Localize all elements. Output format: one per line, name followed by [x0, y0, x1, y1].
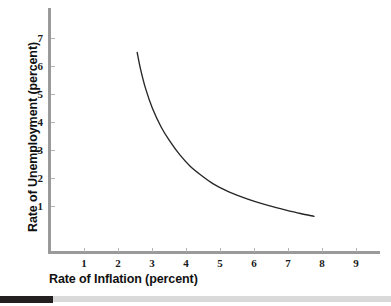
y-tick-mark-4 — [51, 122, 55, 123]
y-tick-mark-3 — [51, 150, 55, 151]
footer-rule-light-segment — [53, 296, 391, 302]
phillips-curve-plot — [0, 0, 391, 306]
x-axis-line — [48, 251, 380, 254]
y-tick-mark-1 — [51, 206, 55, 207]
y-tick-mark-7 — [51, 38, 55, 39]
x-tick-label-7: 7 — [280, 258, 296, 269]
footer-rule — [0, 296, 391, 303]
y-tick-mark-6 — [51, 66, 55, 67]
y-axis-line — [48, 8, 51, 254]
x-tick-label-5: 5 — [212, 258, 228, 269]
x-tick-label-6: 6 — [246, 258, 262, 269]
x-tick-label-9: 9 — [348, 258, 364, 269]
x-tick-mark-8 — [322, 248, 323, 252]
y-tick-mark-5 — [51, 94, 55, 95]
x-tick-label-8: 8 — [314, 258, 330, 269]
x-tick-mark-6 — [254, 248, 255, 252]
x-axis-title: Rate of Inflation (percent) — [49, 272, 198, 286]
phillips-curve-figure: 7 6 5 4 3 2 1 1 2 3 4 5 6 7 8 9 Rate of … — [0, 0, 391, 306]
x-tick-label-3: 3 — [144, 258, 160, 269]
x-tick-mark-5 — [220, 248, 221, 252]
x-tick-mark-4 — [186, 248, 187, 252]
footer-rule-dark-segment — [0, 296, 53, 303]
x-tick-mark-3 — [152, 248, 153, 252]
x-tick-mark-2 — [118, 248, 119, 252]
phillips-curve-line — [137, 53, 314, 217]
x-tick-label-2: 2 — [110, 258, 126, 269]
x-tick-label-1: 1 — [76, 258, 92, 269]
x-tick-mark-1 — [84, 248, 85, 252]
x-tick-label-4: 4 — [178, 258, 194, 269]
y-axis-title: Rate of Unemployment (percent) — [26, 37, 40, 237]
x-tick-mark-7 — [288, 248, 289, 252]
y-tick-mark-2 — [51, 178, 55, 179]
x-tick-mark-9 — [356, 248, 357, 252]
